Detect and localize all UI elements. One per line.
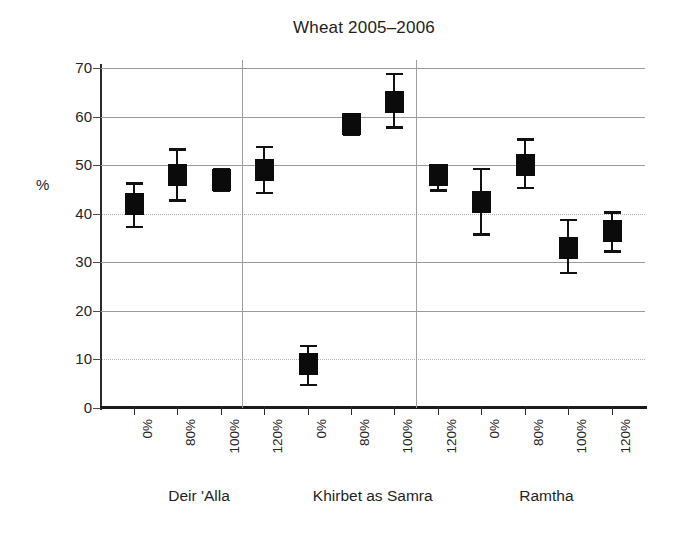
y-tick-label: 50 <box>46 157 92 172</box>
value-square <box>299 353 318 375</box>
y-tick-mark <box>93 214 101 215</box>
x-tick-mark <box>568 406 569 415</box>
gridline <box>100 311 645 312</box>
gridline <box>100 68 645 69</box>
y-tick-mark <box>93 408 101 409</box>
error-bar-cap-upper <box>386 73 403 76</box>
x-tick-label: 0% <box>140 419 155 439</box>
group-separator <box>242 60 243 408</box>
y-tick-label: 70 <box>46 60 92 75</box>
chart-title: Wheat 2005–2006 <box>0 18 680 38</box>
x-tick-label: 100% <box>574 419 589 454</box>
error-bar-cap-lower <box>256 192 273 195</box>
value-square <box>472 191 491 213</box>
chart-figure: Wheat 2005–2006 % 0102030405060700%80%10… <box>0 0 680 538</box>
value-square <box>168 164 187 186</box>
gridline <box>100 359 645 360</box>
error-bar-cap-lower <box>517 187 534 190</box>
error-bar-cap-upper <box>126 182 143 185</box>
error-bar-cap-upper <box>604 211 621 214</box>
error-bar-cap-lower <box>300 384 317 387</box>
y-tick-mark <box>93 68 101 69</box>
group-separator <box>416 60 417 408</box>
error-bar-cap-lower <box>604 250 621 253</box>
y-tick-label: 0 <box>46 400 92 415</box>
value-square <box>559 237 578 259</box>
x-tick-label: 80% <box>357 419 372 446</box>
error-bar-cap-upper <box>517 138 534 141</box>
error-bar-cap-lower <box>430 189 447 192</box>
x-tick-label: 80% <box>183 419 198 446</box>
x-tick-mark <box>481 406 482 415</box>
error-bar-cap-lower <box>560 272 577 275</box>
chart-title-text: Wheat 2005–2006 <box>293 18 435 38</box>
x-tick-label: 0% <box>487 419 502 439</box>
y-tick-label: 10 <box>46 351 92 366</box>
x-tick-mark <box>264 406 265 415</box>
x-tick-label: 80% <box>531 419 546 446</box>
error-bar-cap-upper <box>169 148 186 151</box>
x-tick-label: 120% <box>444 419 459 454</box>
x-tick-label: 120% <box>270 419 285 454</box>
error-bar-cap-lower <box>386 126 403 129</box>
x-tick-mark <box>308 406 309 415</box>
value-square <box>342 113 361 135</box>
value-square <box>516 154 535 176</box>
y-tick-label: 20 <box>46 303 92 318</box>
x-tick-mark <box>134 406 135 415</box>
x-tick-label: 100% <box>400 419 415 454</box>
x-tick-mark <box>177 406 178 415</box>
y-tick-mark <box>93 117 101 118</box>
x-tick-mark <box>438 406 439 415</box>
value-square <box>212 169 231 191</box>
group-label: Ramtha <box>519 487 573 505</box>
y-tick-mark <box>93 311 101 312</box>
x-tick-mark <box>525 406 526 415</box>
group-label: Deir 'Alla <box>168 487 230 505</box>
value-square <box>603 220 622 242</box>
error-bar-cap-upper <box>560 219 577 222</box>
error-bar-cap-lower <box>169 199 186 202</box>
error-bar-cap-upper <box>473 168 490 171</box>
y-tick-label: 40 <box>46 206 92 221</box>
error-bar-cap-lower <box>126 226 143 229</box>
gridline <box>100 117 645 118</box>
y-tick-mark <box>93 262 101 263</box>
y-tick-label: 30 <box>46 254 92 269</box>
y-tick-label: 60 <box>46 109 92 124</box>
group-label: Khirbet as Samra <box>313 487 433 505</box>
x-tick-label: 120% <box>618 419 633 454</box>
x-tick-mark <box>612 406 613 415</box>
error-bar-cap-upper <box>300 345 317 348</box>
y-tick-mark <box>93 359 101 360</box>
value-square <box>429 164 448 186</box>
x-tick-mark <box>351 406 352 415</box>
x-tick-label: 0% <box>314 419 329 439</box>
value-square <box>385 91 404 113</box>
y-tick-mark <box>93 165 101 166</box>
value-square <box>255 159 274 181</box>
error-bar-cap-upper <box>256 146 273 149</box>
gridline <box>100 262 645 263</box>
x-tick-mark <box>221 406 222 415</box>
y-axis-title: % <box>36 176 49 193</box>
x-tick-label: 100% <box>227 419 242 454</box>
value-square <box>125 193 144 215</box>
x-tick-mark <box>394 406 395 415</box>
gridline <box>100 214 645 215</box>
error-bar-cap-lower <box>473 233 490 236</box>
